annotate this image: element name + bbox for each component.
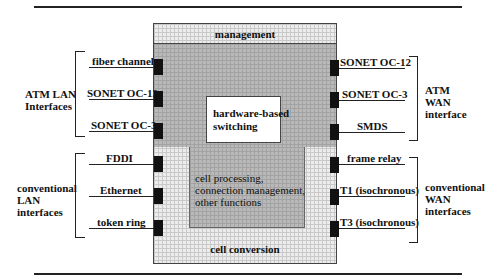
group-atm-wan: ATM WAN interface bbox=[425, 84, 467, 120]
top-rule bbox=[34, 6, 462, 8]
hardware-switching-box: hardware-based switching bbox=[206, 96, 281, 143]
link-right-sonet-oc12 bbox=[339, 68, 405, 69]
group-title-line: interfaces bbox=[425, 205, 485, 217]
port-frame-relay bbox=[330, 157, 339, 173]
group-title-line: WAN bbox=[425, 96, 467, 108]
group-conventional-wan: conventional WAN interfaces bbox=[425, 181, 485, 217]
switching-label-1: hardware-based bbox=[213, 107, 289, 119]
port-fiber-channel bbox=[154, 59, 163, 75]
port-t1 bbox=[330, 189, 339, 205]
group-title-line: conventional bbox=[425, 181, 485, 193]
group-conventional-lan: conventional LAN interfaces bbox=[17, 182, 77, 218]
processing-label-1: cell processing, bbox=[195, 172, 263, 184]
processing-label-2: connection management, bbox=[195, 184, 305, 196]
link-ethernet bbox=[89, 196, 154, 197]
port-token-ring bbox=[154, 220, 163, 236]
port-smds bbox=[330, 124, 339, 140]
port-right-sonet-oc12 bbox=[330, 60, 339, 76]
cell-conversion-label: cell conversion bbox=[154, 243, 336, 255]
label-frame-relay: frame relay bbox=[347, 152, 401, 164]
label-t1: T1 (isochronous) bbox=[340, 184, 419, 196]
link-t1 bbox=[339, 196, 405, 197]
link-left-sonet-oc12 bbox=[89, 99, 154, 100]
management-label: management bbox=[154, 28, 336, 40]
link-fiber-channel bbox=[89, 67, 154, 68]
link-right-sonet-oc3 bbox=[339, 100, 405, 101]
bracket-atm-lan bbox=[75, 51, 85, 137]
link-t3 bbox=[339, 228, 405, 229]
bracket-atm-wan bbox=[409, 56, 418, 141]
label-fddi: FDDI bbox=[106, 152, 133, 164]
group-title-line: interfaces bbox=[17, 206, 77, 218]
switching-label-2: switching bbox=[213, 120, 258, 132]
group-title-line: conventional bbox=[17, 182, 77, 194]
port-ethernet bbox=[154, 188, 163, 204]
group-title-line: WAN bbox=[425, 193, 485, 205]
bottom-rule bbox=[34, 273, 462, 275]
group-title-line: ATM LAN bbox=[25, 88, 76, 100]
group-title-line: ATM bbox=[425, 84, 467, 96]
label-right-sonet-oc12: SONET OC-12 bbox=[340, 56, 411, 68]
port-t3 bbox=[330, 221, 339, 237]
port-right-sonet-oc3 bbox=[330, 92, 339, 108]
group-atm-lan: ATM LAN Interfaces bbox=[25, 88, 76, 112]
label-left-sonet-oc3: SONET OC-3 bbox=[91, 119, 157, 131]
label-t3: T3 (isochronous) bbox=[340, 216, 419, 228]
group-title-line: LAN bbox=[17, 194, 77, 206]
bracket-conventional-wan bbox=[409, 157, 418, 243]
label-left-sonet-oc12: SONET OC-12 bbox=[87, 87, 158, 99]
link-token-ring bbox=[89, 228, 154, 229]
link-frame-relay bbox=[339, 164, 405, 165]
group-title-line: interface bbox=[425, 108, 467, 120]
link-fddi bbox=[89, 164, 154, 165]
label-right-sonet-oc3: SONET OC-3 bbox=[342, 88, 408, 100]
group-title-line: Interfaces bbox=[25, 100, 76, 112]
label-token-ring: token ring bbox=[97, 216, 146, 228]
link-smds bbox=[339, 132, 405, 133]
label-ethernet: Ethernet bbox=[100, 184, 142, 196]
processing-label-3: other functions bbox=[195, 196, 261, 208]
label-smds: SMDS bbox=[357, 120, 388, 132]
port-fddi bbox=[154, 156, 163, 172]
management-band: management bbox=[154, 24, 336, 44]
label-fiber-channel: fiber channel bbox=[92, 55, 154, 67]
link-left-sonet-oc3 bbox=[89, 131, 154, 132]
